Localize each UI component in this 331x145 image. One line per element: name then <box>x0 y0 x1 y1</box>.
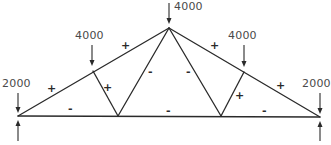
load-label-left-panel: 4000 <box>75 29 104 42</box>
sign-bottom-chord-right: - <box>262 105 267 116</box>
sign-web-right-diagonal: - <box>186 66 191 77</box>
sign-top-chord-left-inner: + <box>121 40 130 51</box>
sign-top-chord-right-outer: + <box>276 80 285 91</box>
load-label-left-support: 2000 <box>2 77 31 90</box>
sign-web-left-diagonal: - <box>148 66 153 77</box>
sign-top-chord-left-outer: + <box>47 83 56 94</box>
sign-web-left-vertical: + <box>103 82 112 93</box>
arrow-down-icon <box>167 3 172 24</box>
sign-bottom-chord-middle: - <box>166 105 171 116</box>
sign-bottom-chord-left: - <box>68 103 73 114</box>
arrow-up-icon <box>318 121 323 141</box>
arrow-up-icon <box>16 120 21 141</box>
arrow-down-icon <box>242 45 247 67</box>
arrow-down-icon <box>90 45 95 66</box>
load-label-right-panel: 4000 <box>228 29 257 42</box>
arrow-down-icon <box>16 93 21 113</box>
load-label-right-support: 2000 <box>302 77 331 90</box>
sign-web-right-vertical: + <box>235 90 244 101</box>
arrow-down-icon <box>318 93 323 114</box>
load-label-apex: 4000 <box>174 0 203 13</box>
sign-top-chord-right-inner: + <box>210 40 219 51</box>
